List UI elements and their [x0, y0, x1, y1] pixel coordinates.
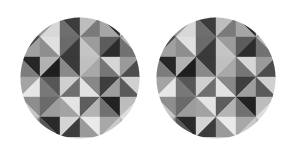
- triangle-tile: [20, 117, 40, 137]
- triangle-tile: [20, 17, 40, 37]
- pattern-disc-left: Geometric pattern disc (left): [20, 17, 140, 139]
- triangle-tile: [20, 117, 40, 137]
- triangle-tile: [176, 17, 196, 37]
- disc-pattern-graphic: [20, 17, 140, 139]
- triangle-tile: [120, 37, 140, 57]
- image-canvas: Geometric pattern disc (left) Geometric …: [0, 0, 291, 153]
- disc-caption: Geometric pattern disc (right): [156, 139, 157, 140]
- triangle-tile: [120, 117, 140, 137]
- triangle-tile: [20, 37, 40, 57]
- triangle-tile: [120, 17, 140, 37]
- triangle-tile: [256, 17, 276, 37]
- triangle-tile: [40, 17, 60, 37]
- disc-pattern-graphic: [156, 17, 276, 139]
- triangle-tile: [156, 117, 176, 137]
- triangle-tile: [120, 117, 140, 137]
- triangle-tile: [256, 17, 276, 37]
- triangle-tile: [256, 37, 276, 57]
- pattern-disc-right: Geometric pattern disc (right): [156, 17, 276, 139]
- triangle-tile: [156, 37, 176, 57]
- triangle-tile: [256, 117, 276, 137]
- triangle-tile: [20, 17, 40, 37]
- triangle-tile: [256, 117, 276, 137]
- triangle-tile: [100, 17, 120, 37]
- triangle-tile: [236, 17, 256, 37]
- triangle-tile: [156, 17, 176, 37]
- disc-caption: Geometric pattern disc (left): [20, 139, 21, 140]
- triangle-tile: [120, 17, 140, 37]
- triangle-tile: [156, 117, 176, 137]
- triangle-tile: [156, 17, 176, 37]
